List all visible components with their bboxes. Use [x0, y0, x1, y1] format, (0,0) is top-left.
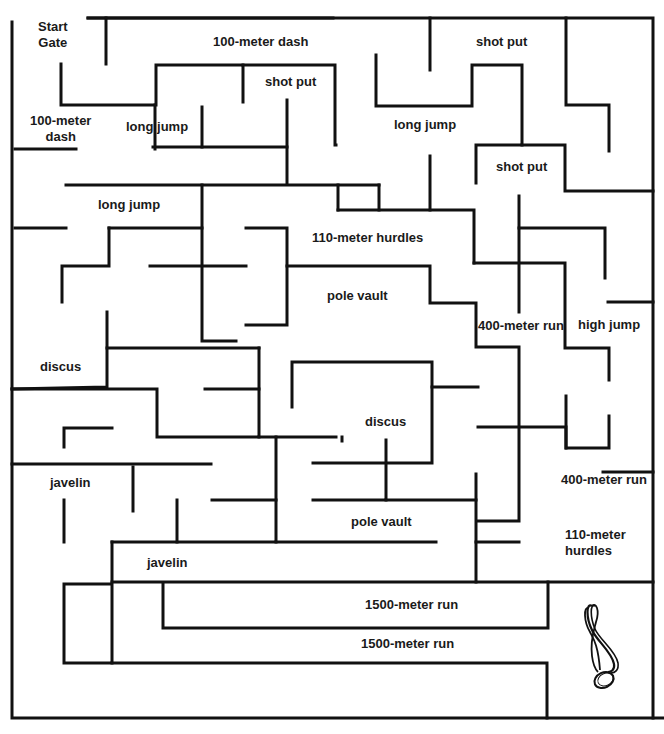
label-shot-put-top: shot put — [476, 34, 527, 50]
label-start-gate: StartGate — [38, 19, 68, 51]
maze-wall — [64, 542, 112, 663]
label-110m-hurdles-bottom: 110-meterhurdles — [565, 527, 626, 559]
label-shot-put-right: shot put — [496, 159, 547, 175]
maze-wall — [12, 312, 107, 389]
label-pole-vault-top: pole vault — [327, 288, 388, 304]
maze-wall — [112, 437, 276, 542]
label-pole-vault-bottom: pole vault — [351, 514, 412, 530]
maze-wall — [61, 64, 243, 105]
maze-wall — [519, 228, 605, 278]
label-100m-dash-left: 100-meterdash — [30, 113, 91, 145]
label-javelin-2: javelin — [147, 555, 187, 571]
maze-wall — [64, 428, 112, 447]
maze-wall — [287, 266, 519, 521]
label-400m-run-right: 400-meter run — [561, 472, 647, 488]
medal-icon — [578, 600, 628, 692]
label-javelin-1: javelin — [50, 475, 90, 491]
label-long-jump-3: long jump — [98, 197, 160, 213]
label-long-jump-2: long jump — [394, 117, 456, 133]
maze-wall — [202, 185, 236, 341]
label-discus-mid: discus — [365, 414, 406, 430]
label-discus-left: discus — [40, 359, 81, 375]
maze-board — [0, 0, 664, 734]
label-long-jump-1: long jump — [126, 119, 188, 135]
maze-wall — [62, 228, 109, 302]
maze-wall — [112, 663, 547, 718]
maze-wall — [163, 582, 548, 628]
maze-wall — [246, 228, 287, 325]
maze-wall — [566, 18, 609, 151]
maze-wall — [292, 362, 432, 463]
label-1500m-run-1: 1500-meter run — [365, 597, 458, 613]
maze-wall — [313, 440, 386, 500]
maze-wall — [478, 416, 609, 448]
label-1500m-run-2: 1500-meter run — [361, 636, 454, 652]
label-110m-hurdles-top: 110-meter hurdles — [312, 230, 423, 246]
label-100m-dash-top: 100-meter dash — [213, 34, 308, 50]
label-400m-run-mid: 400-meter run — [478, 318, 564, 334]
maze-wall — [12, 22, 664, 718]
label-high-jump: high jump — [578, 317, 640, 333]
label-shot-put-mid: shot put — [265, 74, 316, 90]
